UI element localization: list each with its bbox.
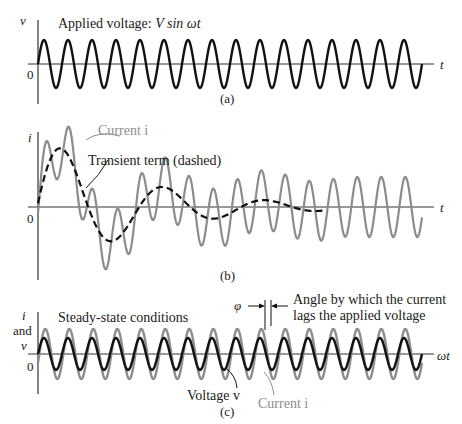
panel-c-y-label-v: v (21, 339, 27, 352)
panel-c-x-label: ωt (437, 349, 450, 362)
panel-b-origin: 0 (27, 212, 34, 225)
phase-note-line2: lags the applied voltage (293, 309, 426, 323)
panel-a-title-expr: V sin ωt (155, 16, 200, 31)
panel-a-caption: (a) (220, 92, 234, 105)
panel-b-current-label: Current i (98, 124, 148, 138)
panel-b-x-label: t (440, 201, 444, 214)
panel-c-current-label: Current i (258, 397, 308, 411)
panel-c-voltage-label: Voltage v (187, 389, 240, 403)
panel-c-y-label-i: i (22, 309, 26, 322)
phi-marker (248, 300, 288, 330)
panel-a-y-label: v (20, 14, 26, 27)
panel-c-origin: 0 (27, 360, 34, 373)
panel-a-title: Applied voltage: V sin ωt (58, 17, 201, 31)
panel-a-origin: 0 (27, 68, 34, 81)
figure-canvas (0, 0, 462, 424)
phi-label: φ (234, 299, 241, 312)
panel-c-y-label-and: and (13, 324, 32, 337)
panel-b-current-curve (38, 127, 422, 269)
panel-c-caption: (c) (220, 405, 234, 418)
panel-c-title: Steady-state conditions (58, 311, 188, 325)
phase-note-line1: Angle by which the current (293, 293, 446, 307)
panel-b-transient-label: Transient term (dashed) (88, 154, 221, 168)
panel-a-x-label: t (440, 58, 444, 71)
panel-a-title-prefix: Applied voltage: (58, 16, 155, 31)
panel-b-caption: (b) (220, 269, 235, 282)
panel-b-y-label: i (28, 131, 32, 144)
